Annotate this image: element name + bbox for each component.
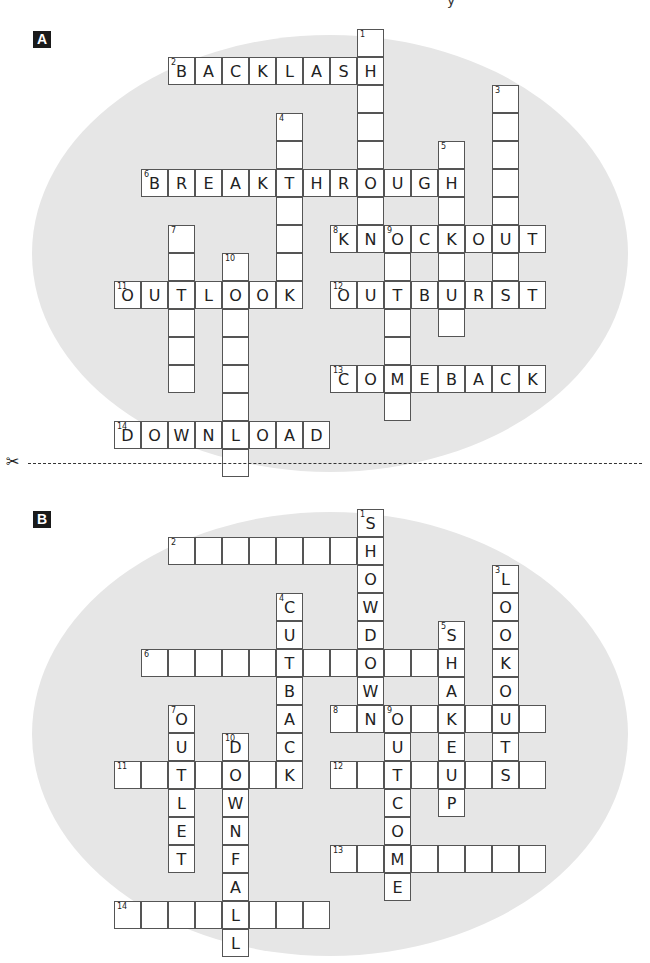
crossword-cell[interactable]: H bbox=[438, 649, 465, 677]
crossword-cell[interactable] bbox=[411, 649, 438, 677]
crossword-cell[interactable]: G bbox=[411, 169, 438, 197]
crossword-cell[interactable]: 6 bbox=[141, 649, 168, 677]
crossword-cell[interactable] bbox=[465, 705, 492, 733]
crossword-cell[interactable] bbox=[195, 649, 222, 677]
crossword-cell[interactable] bbox=[195, 537, 222, 565]
crossword-cell[interactable]: N bbox=[222, 817, 249, 845]
crossword-cell[interactable]: 10D bbox=[222, 733, 249, 761]
crossword-cell[interactable] bbox=[195, 901, 222, 929]
crossword-cell[interactable]: 14D bbox=[114, 421, 141, 449]
crossword-cell[interactable]: K bbox=[438, 705, 465, 733]
crossword-cell[interactable]: O bbox=[492, 677, 519, 705]
crossword-cell[interactable]: U bbox=[168, 733, 195, 761]
crossword-cell[interactable]: A bbox=[303, 57, 330, 85]
crossword-cell[interactable]: 2 bbox=[168, 537, 195, 565]
crossword-cell[interactable] bbox=[249, 901, 276, 929]
crossword-cell[interactable] bbox=[492, 169, 519, 197]
crossword-cell[interactable] bbox=[276, 197, 303, 225]
crossword-cell[interactable] bbox=[222, 393, 249, 421]
crossword-cell[interactable]: 1S bbox=[357, 509, 384, 537]
crossword-cell[interactable] bbox=[168, 337, 195, 365]
crossword-cell[interactable]: 4C bbox=[276, 593, 303, 621]
crossword-cell[interactable]: S bbox=[492, 761, 519, 789]
crossword-cell[interactable] bbox=[357, 845, 384, 873]
crossword-cell[interactable] bbox=[303, 649, 330, 677]
crossword-cell[interactable] bbox=[384, 393, 411, 421]
crossword-cell[interactable]: U bbox=[276, 621, 303, 649]
crossword-cell[interactable]: U bbox=[384, 733, 411, 761]
crossword-cell[interactable]: 6B bbox=[141, 169, 168, 197]
crossword-cell[interactable]: A bbox=[438, 677, 465, 705]
crossword-cell[interactable]: H bbox=[357, 57, 384, 85]
crossword-cell[interactable]: T bbox=[168, 845, 195, 873]
crossword-cell[interactable]: D bbox=[303, 421, 330, 449]
crossword-cell[interactable]: W bbox=[357, 677, 384, 705]
crossword-cell[interactable]: O bbox=[222, 281, 249, 309]
crossword-cell[interactable] bbox=[438, 197, 465, 225]
crossword-cell[interactable]: O bbox=[357, 365, 384, 393]
crossword-cell[interactable]: O bbox=[465, 225, 492, 253]
crossword-cell[interactable]: E bbox=[438, 733, 465, 761]
crossword-cell[interactable]: T bbox=[519, 281, 546, 309]
crossword-cell[interactable] bbox=[222, 309, 249, 337]
crossword-cell[interactable]: 7 bbox=[168, 225, 195, 253]
crossword-cell[interactable]: R bbox=[465, 281, 492, 309]
crossword-cell[interactable]: U bbox=[438, 281, 465, 309]
crossword-cell[interactable]: M bbox=[384, 845, 411, 873]
crossword-cell[interactable] bbox=[438, 253, 465, 281]
crossword-cell[interactable] bbox=[384, 337, 411, 365]
crossword-cell[interactable] bbox=[492, 197, 519, 225]
crossword-cell[interactable]: E bbox=[384, 873, 411, 901]
crossword-cell[interactable]: 5S bbox=[438, 621, 465, 649]
crossword-cell[interactable]: K bbox=[519, 365, 546, 393]
crossword-cell[interactable] bbox=[357, 85, 384, 113]
crossword-cell[interactable] bbox=[384, 649, 411, 677]
crossword-cell[interactable]: U bbox=[492, 225, 519, 253]
crossword-cell[interactable] bbox=[330, 649, 357, 677]
crossword-cell[interactable]: T bbox=[276, 649, 303, 677]
crossword-cell[interactable] bbox=[438, 309, 465, 337]
crossword-cell[interactable]: E bbox=[411, 365, 438, 393]
crossword-cell[interactable]: 9O bbox=[384, 705, 411, 733]
crossword-cell[interactable]: U bbox=[357, 281, 384, 309]
crossword-cell[interactable]: 14 bbox=[114, 901, 141, 929]
crossword-cell[interactable] bbox=[492, 253, 519, 281]
crossword-cell[interactable] bbox=[384, 253, 411, 281]
crossword-cell[interactable] bbox=[195, 761, 222, 789]
crossword-cell[interactable]: U bbox=[141, 281, 168, 309]
crossword-cell[interactable]: C bbox=[384, 789, 411, 817]
crossword-cell[interactable] bbox=[249, 649, 276, 677]
crossword-cell[interactable]: O bbox=[141, 421, 168, 449]
crossword-cell[interactable] bbox=[168, 901, 195, 929]
crossword-cell[interactable] bbox=[492, 113, 519, 141]
crossword-cell[interactable]: A bbox=[195, 57, 222, 85]
crossword-cell[interactable]: H bbox=[303, 169, 330, 197]
crossword-cell[interactable]: B bbox=[438, 365, 465, 393]
crossword-cell[interactable]: S bbox=[492, 281, 519, 309]
crossword-cell[interactable]: 12O bbox=[330, 281, 357, 309]
crossword-cell[interactable]: K bbox=[276, 761, 303, 789]
crossword-cell[interactable]: O bbox=[357, 565, 384, 593]
crossword-cell[interactable]: E bbox=[168, 817, 195, 845]
crossword-cell[interactable]: 5 bbox=[438, 141, 465, 169]
crossword-cell[interactable]: 3 bbox=[492, 85, 519, 113]
crossword-cell[interactable] bbox=[492, 845, 519, 873]
crossword-cell[interactable]: W bbox=[222, 789, 249, 817]
crossword-cell[interactable] bbox=[411, 845, 438, 873]
crossword-cell[interactable] bbox=[276, 253, 303, 281]
crossword-cell[interactable] bbox=[222, 337, 249, 365]
crossword-cell[interactable]: K bbox=[249, 169, 276, 197]
crossword-cell[interactable]: R bbox=[330, 169, 357, 197]
crossword-cell[interactable]: T bbox=[168, 281, 195, 309]
crossword-cell[interactable]: P bbox=[438, 789, 465, 817]
crossword-cell[interactable]: O bbox=[492, 621, 519, 649]
crossword-cell[interactable]: L bbox=[222, 901, 249, 929]
crossword-cell[interactable]: W bbox=[357, 593, 384, 621]
crossword-cell[interactable] bbox=[465, 761, 492, 789]
crossword-cell[interactable] bbox=[276, 901, 303, 929]
crossword-cell[interactable] bbox=[141, 901, 168, 929]
crossword-cell[interactable]: 3L bbox=[492, 565, 519, 593]
crossword-cell[interactable]: 9O bbox=[384, 225, 411, 253]
crossword-cell[interactable]: L bbox=[276, 57, 303, 85]
crossword-cell[interactable] bbox=[465, 845, 492, 873]
